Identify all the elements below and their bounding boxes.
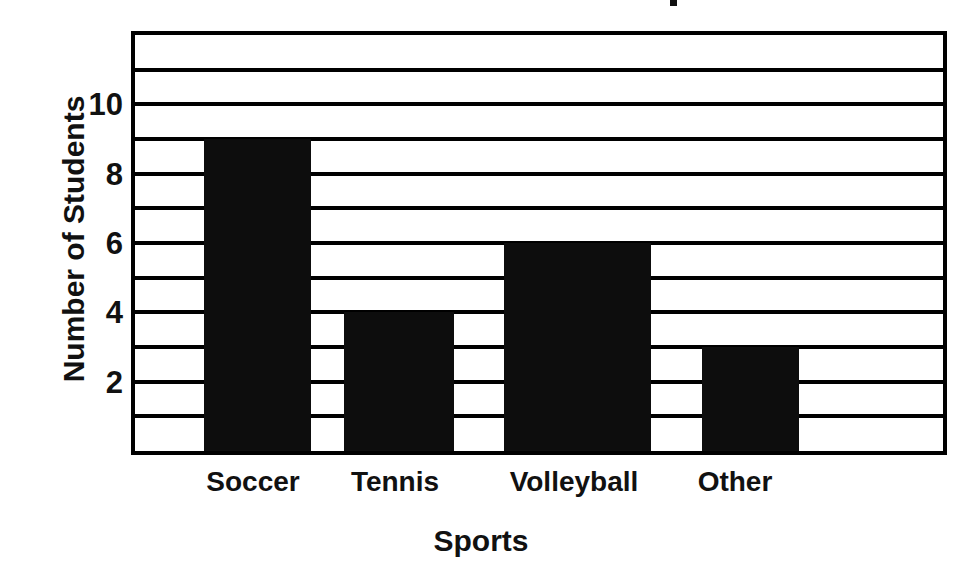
gridline — [135, 102, 943, 106]
x-axis-category-labels: SoccerTennisVolleyballOther — [131, 468, 947, 508]
cropped-title-fragment — [670, 0, 677, 6]
y-tick-label: 2 — [63, 367, 123, 398]
bar-chart-figure: Number of Students 246810 SoccerTennisVo… — [0, 0, 971, 582]
y-tick-label: 4 — [63, 297, 123, 328]
bar — [504, 243, 651, 451]
gridline — [135, 68, 943, 72]
plot-area-inner — [135, 35, 943, 451]
bar — [344, 312, 454, 451]
plot-area-frame — [131, 31, 947, 455]
x-axis-title: Sports — [0, 524, 962, 558]
y-axis-tick-labels: 246810 — [55, 31, 123, 455]
x-tick-label: Other — [585, 468, 885, 496]
y-tick-label: 10 — [63, 89, 123, 120]
bar — [702, 347, 799, 451]
y-tick-label: 8 — [63, 159, 123, 190]
y-tick-label: 6 — [63, 228, 123, 259]
bar — [204, 139, 311, 451]
